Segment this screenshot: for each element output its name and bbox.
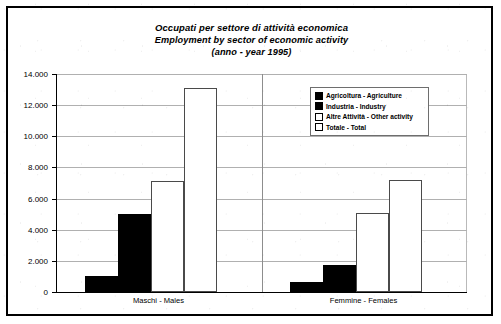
- legend-item-label: Industria - Industry: [326, 103, 386, 110]
- legend-item: Agricoltura - Agriculture: [315, 91, 424, 100]
- legend-swatch-icon: [315, 123, 323, 131]
- y-axis-tick-label: 0: [44, 288, 48, 297]
- y-axis-tick-label: 4.000: [28, 225, 48, 234]
- y-axis-tick-label: 6.000: [28, 194, 48, 203]
- y-axis-tick-label: 12.000: [24, 101, 48, 110]
- y-axis-tick: [52, 167, 57, 168]
- x-axis-label: Femmine - Females: [330, 296, 398, 305]
- x-axis-label: Maschi - Males: [133, 296, 184, 305]
- y-axis-tick: [52, 105, 57, 106]
- legend-swatch-icon: [315, 102, 323, 110]
- x-axis-category-labels: Maschi - MalesFemmine - Females: [56, 296, 466, 310]
- title-line-italian: Occupati per settore di attività economi…: [8, 22, 495, 34]
- legend-item: Altre Attività - Other activity: [315, 112, 424, 121]
- y-axis-tick: [52, 261, 57, 262]
- category-separator: [262, 74, 263, 292]
- bar-altre-femmine: [356, 213, 389, 292]
- title-line-english: Employment by sector of economic activit…: [8, 34, 495, 46]
- bar-agricoltura-maschi: [85, 276, 118, 292]
- y-axis-tick: [52, 74, 57, 75]
- y-axis-tick: [52, 292, 57, 293]
- y-axis-tick: [52, 199, 57, 200]
- legend-item-label: Totale - Total: [326, 124, 366, 131]
- chart-title: Occupati per settore di attività economi…: [8, 22, 495, 58]
- bar-altre-maschi: [151, 181, 184, 292]
- title-line-year: (anno - year 1995): [8, 46, 495, 58]
- y-axis-tick-label: 2.000: [28, 256, 48, 265]
- legend-item: Totale - Total: [315, 123, 424, 132]
- legend-swatch-icon: [315, 113, 323, 121]
- legend-swatch-icon: [315, 92, 323, 100]
- legend-item: Industria - Industry: [315, 102, 424, 111]
- bar-agricoltura-femmine: [290, 282, 323, 292]
- chart-page: Occupati per settore di attività economi…: [0, 0, 501, 324]
- y-axis-tick-label: 8.000: [28, 163, 48, 172]
- y-axis-tick-label: 10.000: [24, 132, 48, 141]
- legend-item-label: Agricoltura - Agriculture: [326, 92, 402, 99]
- bar-totale-maschi: [184, 88, 217, 292]
- bar-industria-femmine: [323, 265, 356, 292]
- bar-totale-femmine: [389, 180, 422, 292]
- y-axis-tick: [52, 136, 57, 137]
- y-axis-tick-label: 14.000: [24, 70, 48, 79]
- y-axis-tick-labels: 02.0004.0006.0008.00010.00012.00014.000: [8, 74, 54, 292]
- y-axis-tick: [52, 230, 57, 231]
- legend-item-label: Altre Attività - Other activity: [326, 113, 413, 120]
- bar-industria-maschi: [118, 214, 151, 292]
- chart-legend: Agricoltura - AgricultureIndustria - Ind…: [310, 87, 429, 136]
- chart-outer-frame: Occupati per settore di attività economi…: [6, 6, 493, 316]
